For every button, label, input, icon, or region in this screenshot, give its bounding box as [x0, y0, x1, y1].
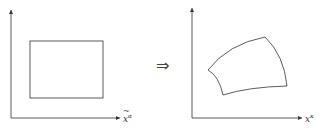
right-axes — [192, 8, 302, 118]
right-axis-label-sup: κ — [310, 112, 314, 119]
right-curved-shape — [208, 37, 287, 95]
left-axis-label-base: x — [123, 114, 128, 124]
right-axis-label: xκ — [305, 113, 314, 124]
implies-arrow-icon: ⇒ — [156, 56, 169, 75]
left-rectangle — [30, 41, 103, 98]
left-axes — [11, 10, 120, 118]
left-axis-label: xα — [123, 113, 132, 124]
